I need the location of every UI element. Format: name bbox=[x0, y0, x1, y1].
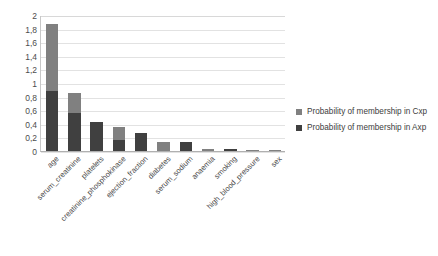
y-axis-tick-label: 0,8 bbox=[3, 93, 37, 102]
bar-segment-axp bbox=[224, 149, 236, 151]
bar-segment-cxp bbox=[269, 150, 281, 151]
bar-group bbox=[68, 93, 80, 151]
y-axis-labels: 00,20,40,60,811,21,41,61,82 bbox=[0, 16, 37, 152]
bar-segment-axp bbox=[68, 113, 80, 151]
bar-segment-axp bbox=[180, 142, 192, 151]
bar-segment-cxp bbox=[68, 93, 80, 113]
plot-area bbox=[40, 16, 285, 152]
y-axis-tick-label: 1,6 bbox=[3, 39, 37, 48]
x-axis-tick-label: ejection_fraction bbox=[105, 155, 149, 199]
bar-segment-cxp bbox=[46, 24, 58, 91]
bar-group bbox=[90, 122, 102, 151]
bar-group bbox=[224, 149, 236, 151]
bar-segment-cxp bbox=[157, 142, 169, 151]
y-axis-tick-label: 0,4 bbox=[3, 121, 37, 130]
chart-legend: Probability of membership in CxpProbabil… bbox=[296, 107, 432, 138]
bar-group bbox=[202, 149, 214, 151]
bar-group bbox=[157, 142, 169, 151]
y-axis-tick-label: 1,8 bbox=[3, 25, 37, 34]
legend-item: Probability of membership in Cxp bbox=[296, 107, 432, 118]
legend-label: Probability of membership in Cxp bbox=[307, 107, 427, 116]
y-axis-tick-label: 1,2 bbox=[3, 66, 37, 75]
bar-segment-cxp bbox=[202, 149, 214, 151]
legend-swatch-icon bbox=[296, 125, 302, 131]
y-axis-tick-label: 2 bbox=[3, 12, 37, 21]
y-axis-tick-label: 0,2 bbox=[3, 134, 37, 143]
x-axis-tick-label: anaemia bbox=[190, 155, 216, 181]
y-axis-tick-label: 1,4 bbox=[3, 53, 37, 62]
y-axis-tick-label: 0 bbox=[3, 148, 37, 157]
stacked-bar-chart: 00,20,40,60,811,21,41,61,82 ageserum_cre… bbox=[0, 0, 438, 256]
legend-swatch-icon bbox=[296, 109, 302, 115]
legend-label: Probability of membership in Axp bbox=[307, 123, 426, 132]
bar-group bbox=[180, 142, 192, 151]
bar-group bbox=[46, 24, 58, 151]
legend-item: Probability of membership in Axp bbox=[296, 123, 432, 134]
bar-series-container bbox=[41, 16, 285, 151]
x-axis-tick-label: sex bbox=[269, 155, 283, 169]
bar-group bbox=[269, 150, 281, 151]
x-axis-tick-label: age bbox=[46, 155, 60, 169]
bar-group bbox=[113, 127, 125, 151]
bar-segment-axp bbox=[135, 133, 147, 151]
bar-group bbox=[246, 150, 258, 151]
bar-segment-axp bbox=[46, 91, 58, 151]
y-axis-tick-label: 1 bbox=[3, 80, 37, 89]
x-axis-tick-label: serum_creatinine bbox=[36, 155, 83, 202]
x-axis-labels: ageserum_creatinineplateletscreatinine_p… bbox=[40, 152, 285, 252]
bar-segment-axp bbox=[113, 140, 125, 151]
bar-segment-cxp bbox=[113, 127, 125, 140]
bar-segment-cxp bbox=[246, 150, 258, 151]
bar-group bbox=[135, 133, 147, 151]
bar-segment-axp bbox=[90, 122, 102, 151]
y-axis-tick-label: 0,6 bbox=[3, 107, 37, 116]
